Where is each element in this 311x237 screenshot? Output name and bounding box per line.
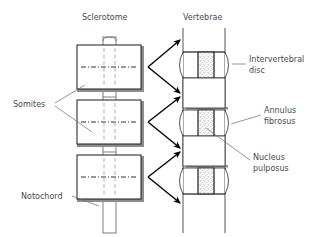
disc-upper-nucleus-pulposus — [198, 52, 214, 78]
vertebral-column[interactable] — [180, 28, 229, 233]
disc-middle-bulge-right — [225, 110, 229, 136]
arrow-4 — [148, 122, 180, 148]
transformation-arrows — [148, 40, 180, 203]
arrow-1 — [148, 40, 180, 67]
label-nucleus-pulposus-line1: Nucleus — [253, 153, 285, 162]
heading-sclerotome: Sclerotome — [82, 13, 127, 22]
diagram-canvas: Sclerotome Vertebrae — [0, 0, 311, 237]
disc-lower-bulge-right — [225, 168, 229, 194]
arrow-5 — [148, 152, 180, 177]
anatomy-diagram: Sclerotome Vertebrae — [0, 0, 311, 237]
disc-upper[interactable] — [180, 52, 229, 78]
label-intervertebral-disc-line1: Intervertebral — [249, 55, 304, 64]
disc-upper-bulge-left — [180, 52, 184, 78]
vertebra-upper[interactable] — [183, 78, 228, 110]
notochord-top-cap — [103, 37, 116, 41]
somite-lower[interactable] — [77, 155, 144, 202]
somite-middle[interactable] — [77, 100, 144, 147]
disc-middle[interactable] — [180, 110, 229, 136]
label-nucleus-pulposus-line2: pulposus — [253, 164, 289, 173]
label-notochord: Notochord — [21, 192, 63, 201]
disc-lower-nucleus-pulposus — [198, 168, 214, 194]
label-somites: Somites — [13, 100, 45, 109]
label-annulus-fibrosus-line2: fibrosus — [264, 117, 296, 126]
label-annulus-fibrosus-line1: Annulus — [264, 106, 296, 115]
disc-upper-bulge-right — [225, 52, 229, 78]
leader-annulus-fibrosus — [231, 115, 261, 124]
heading-vertebrae: Vertebrae — [183, 13, 222, 22]
label-intervertebral-disc-line2: disc — [249, 66, 265, 75]
vertebra-middle[interactable] — [183, 136, 228, 168]
somite-upper[interactable] — [77, 45, 144, 92]
arrow-2 — [148, 67, 180, 93]
arrow-6 — [148, 177, 180, 203]
vertebra-upper-body — [183, 78, 225, 108]
disc-middle-bulge-left — [180, 110, 184, 136]
disc-lower[interactable] — [180, 168, 229, 194]
vertebra-middle-body — [183, 136, 225, 166]
disc-lower-bulge-left — [180, 168, 184, 194]
arrow-3 — [148, 97, 180, 122]
